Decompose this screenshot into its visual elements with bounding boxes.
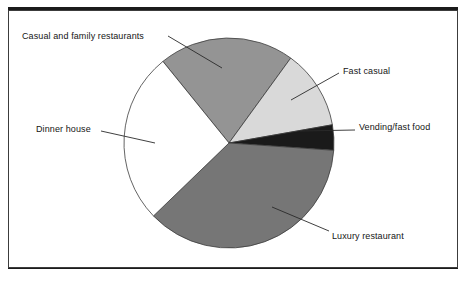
slice-label-casual-and-family-restaurants: Casual and family restaurants [22,31,144,42]
figure-container: Casual and family restaurants Fast casua… [0,0,466,288]
slice-label-luxury-restaurant: Luxury restaurant [332,231,404,242]
slice-label-dinner-house: Dinner house [36,124,91,135]
pie-chart [0,0,466,288]
slice-label-fast-casual: Fast casual [343,66,390,77]
pie-slice-group [124,38,334,248]
slice-label-vending-fast-food: Vending/fast food [359,122,430,133]
